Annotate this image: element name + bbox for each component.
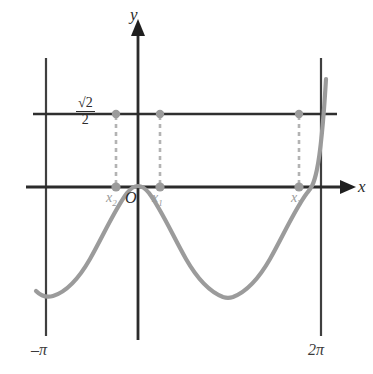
origin-label: O bbox=[125, 190, 137, 206]
marker-x2-on-line bbox=[112, 110, 120, 118]
y-axis-label: y bbox=[130, 6, 138, 23]
marker-x3-on-line bbox=[295, 110, 303, 118]
point-label-x3-subscript: 3 bbox=[297, 198, 302, 208]
function-plot bbox=[0, 0, 373, 374]
point-label-x1: x1 bbox=[152, 191, 163, 208]
marker-x1-on-line bbox=[156, 110, 164, 118]
math-figure: y x √2 2 O x2 x1 x3 –π 2π bbox=[0, 0, 373, 374]
x-tick-label-2pi: 2π bbox=[308, 342, 324, 358]
x-axis-label: x bbox=[358, 178, 366, 195]
sqrt2-over-2-label: √2 2 bbox=[76, 96, 95, 127]
x-tick-label-neg-pi: –π bbox=[31, 342, 47, 358]
fraction-numerator: √2 bbox=[76, 96, 95, 112]
point-label-x2-subscript: 2 bbox=[112, 198, 117, 208]
point-label-x1-subscript: 1 bbox=[158, 198, 163, 208]
point-label-x2: x2 bbox=[106, 191, 117, 208]
x-axis-arrowhead bbox=[340, 180, 356, 194]
point-label-x3: x3 bbox=[291, 191, 302, 208]
fraction-denominator: 2 bbox=[76, 112, 95, 128]
